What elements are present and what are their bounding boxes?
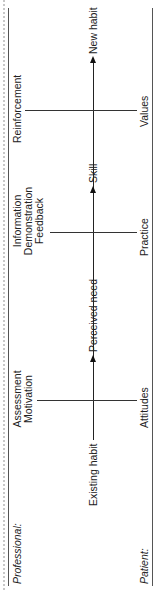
line-motivation: Motivation bbox=[23, 368, 34, 430]
patient-input-practice: Practice bbox=[139, 218, 150, 256]
stage-skill: Skill bbox=[88, 164, 99, 183]
professional-input-assessment: Assessment Motivation bbox=[12, 368, 34, 430]
progress-axis bbox=[93, 62, 94, 440]
arrow-perceived-need-icon bbox=[90, 355, 96, 362]
crossbar-assessment bbox=[37, 400, 137, 401]
crossbar-reinforcement bbox=[25, 110, 137, 111]
crossbar-information bbox=[50, 232, 137, 233]
stage-existing-habit: Existing habit bbox=[88, 444, 99, 506]
habit-change-diagram: New habit Skill Perceived need Existing … bbox=[0, 0, 159, 590]
professional-input-information: Information Demonstration Feedback bbox=[12, 186, 45, 256]
line-feedback: Feedback bbox=[34, 186, 45, 256]
row-label-patient: Patient: bbox=[139, 548, 150, 584]
patient-input-values: Values bbox=[139, 96, 150, 127]
professional-input-reinforcement: Reinforcement bbox=[12, 75, 23, 143]
arrow-new-habit-icon bbox=[90, 56, 96, 63]
patient-divider-line bbox=[152, 8, 153, 586]
professional-divider-line bbox=[8, 8, 9, 586]
cropped-caption-edge bbox=[3, 0, 5, 590]
stage-new-habit: New habit bbox=[88, 7, 99, 54]
arrow-skill-icon bbox=[90, 186, 96, 193]
patient-input-attitudes: Attitudes bbox=[139, 387, 150, 428]
row-label-professional: Professional: bbox=[12, 523, 23, 584]
stage-perceived-need: Perceived need bbox=[88, 279, 99, 352]
